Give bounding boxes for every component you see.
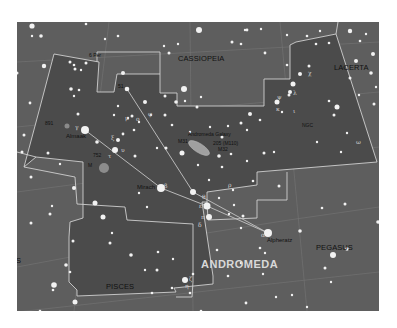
label-ngc-891: 891 <box>45 121 53 126</box>
greek-label: ρ <box>228 182 232 188</box>
greek-label: μ <box>125 115 129 121</box>
label-ngc-7662: NGC <box>302 123 313 128</box>
label-almaak: Almaak <box>66 133 86 139</box>
label-lacerta: LACERTA <box>334 64 369 72</box>
label-51-and: 51 <box>118 84 124 89</box>
andromeda-boundary <box>24 34 377 296</box>
label-cassiopeia: CASSIOPEIA <box>178 55 224 63</box>
greek-label: γ <box>75 124 79 130</box>
greek-label: τ <box>108 153 111 159</box>
label-pegasus: PEGASUS <box>316 244 353 252</box>
greek-label: ω <box>356 139 361 145</box>
greek-label: λ <box>293 90 297 96</box>
greek-label: δ <box>198 222 202 228</box>
greek-label: φ <box>148 111 152 117</box>
label-ngc-752: 752 <box>93 153 101 158</box>
label-m31: M31 <box>178 139 188 144</box>
star-chart-svg <box>17 22 379 311</box>
greek-label: η <box>185 283 189 289</box>
label-andromeda-galaxy: Andromeda Galaxy <box>188 132 231 137</box>
greek-label: χ <box>308 70 312 76</box>
greek-label: υ <box>121 147 125 153</box>
greek-label: α <box>261 232 265 238</box>
greek-label: ψ <box>277 94 282 100</box>
label-alpheratz: Alpheratz <box>267 237 292 243</box>
greek-label: θ <box>202 194 206 200</box>
greek-label: ζ <box>189 276 192 282</box>
label-6-per: 6 Per <box>89 53 101 58</box>
greek-label: ι <box>293 108 295 114</box>
greek-label: ξ <box>111 135 114 141</box>
label-pisces: PISCES <box>106 283 134 291</box>
greek-label: π <box>201 214 205 220</box>
greek-label: ε <box>199 203 202 209</box>
label-cut-off: S <box>17 257 21 265</box>
star-chart: CASSIOPEIA LACERTA PEGASUS PISCES S ANDR… <box>17 22 379 311</box>
label-m-object: M <box>88 163 92 168</box>
constellation-title: ANDROMEDA <box>201 259 278 270</box>
greek-label: β <box>164 183 167 189</box>
greek-label: ο <box>136 116 140 122</box>
label-m32: M32 <box>218 147 228 152</box>
label-mirach: Mirach <box>137 184 155 190</box>
greek-label: κ <box>276 106 280 112</box>
